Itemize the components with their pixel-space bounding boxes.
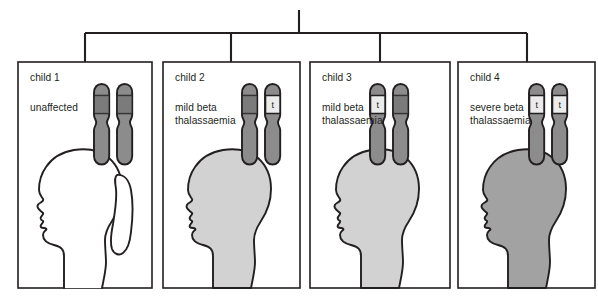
chromosome-left <box>94 84 109 165</box>
chromosome-left-allele-t: t <box>529 84 544 165</box>
pedigree-bracket <box>85 10 527 62</box>
chromosome-left <box>242 84 257 165</box>
allele-label-t: t <box>272 100 275 110</box>
chromosome-right-allele-t: t <box>265 84 280 165</box>
child-4-condition: severe beta thalassaemia <box>470 101 531 127</box>
child-panel-4[interactable]: t t <box>458 62 595 288</box>
child-3-condition: mild beta thalassaemia <box>322 101 383 127</box>
pedigree-diagram: t t <box>0 0 598 304</box>
child-1-condition: unaffected <box>30 101 78 114</box>
allele-label-t: t <box>559 100 562 110</box>
child-1-id: child 1 <box>30 72 60 83</box>
allele-label-t: t <box>536 100 539 110</box>
child-2-condition: mild beta thalassaemia <box>175 101 236 127</box>
child-panel-3[interactable]: t <box>310 62 450 288</box>
child-panel-2[interactable]: t <box>163 62 300 288</box>
child-2-id: child 2 <box>175 72 205 83</box>
chromosome-right-allele-t: t <box>552 84 567 165</box>
child-4-id: child 4 <box>470 72 500 83</box>
child-panel-1[interactable] <box>18 62 152 288</box>
chromosome-right <box>393 84 408 165</box>
diagram-canvas: t t <box>0 0 598 304</box>
chromosome-right <box>117 84 132 165</box>
child-3-id: child 3 <box>322 72 352 83</box>
